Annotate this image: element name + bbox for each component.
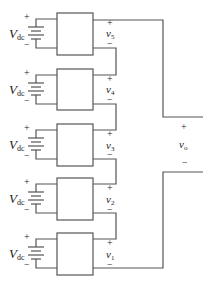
dc-source-top-wire <box>36 19 57 27</box>
vdc-label-4: Vdc <box>9 83 25 98</box>
hbridge-box-2 <box>57 178 93 220</box>
plus-sign: + <box>181 122 187 132</box>
minus-sign: − <box>24 151 30 161</box>
plus-sign: + <box>24 123 30 133</box>
vdc-label-2: Vdc <box>9 192 25 207</box>
vdc-label-3: Vdc <box>9 138 25 153</box>
minus-sign: − <box>107 205 113 215</box>
dc-source-bottom-wire <box>36 39 57 48</box>
vdc-label-1: Vdc <box>9 247 25 262</box>
cell-1 <box>28 233 93 275</box>
minus-sign: − <box>24 260 30 270</box>
minus-sign: − <box>24 205 30 215</box>
plus-sign: + <box>24 177 30 187</box>
vdc-label-5: Vdc <box>9 27 25 42</box>
hbridge-box-1 <box>57 233 93 275</box>
minus-sign: − <box>24 40 30 50</box>
minus-sign: − <box>107 260 113 270</box>
minus-sign: − <box>107 39 113 49</box>
cell-5 <box>28 13 93 55</box>
hbridge-box-4 <box>57 69 93 110</box>
plus-sign: + <box>107 129 113 139</box>
plus-sign: + <box>107 183 113 193</box>
cell-4 <box>28 69 93 110</box>
hbridge-box-3 <box>57 124 93 166</box>
plus-sign: + <box>24 12 30 22</box>
plus-sign: + <box>107 238 113 248</box>
plus-sign: + <box>24 68 30 78</box>
plus-sign: + <box>24 232 30 242</box>
circuit-diagram <box>0 0 203 288</box>
hbridge-box-5 <box>57 13 93 55</box>
cell-2 <box>28 178 93 220</box>
minus-sign: − <box>24 96 30 106</box>
cell-3 <box>28 124 93 166</box>
minus-sign: − <box>107 150 113 160</box>
vo-label: vo <box>179 139 187 152</box>
minus-sign: − <box>182 158 188 168</box>
minus-sign: − <box>107 95 113 105</box>
